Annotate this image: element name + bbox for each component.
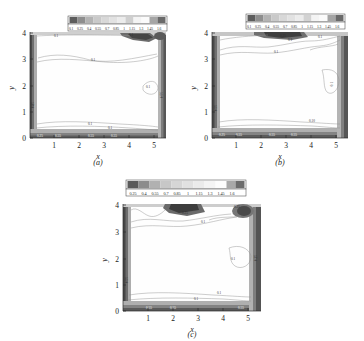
cb-tick: 1.45 [325, 25, 331, 29]
cb-tick: 0.25 [130, 191, 137, 196]
cb-tick: 0.55 [95, 27, 101, 31]
contour-label: 0.10 [309, 119, 315, 123]
contour-label: 0.1 [330, 82, 334, 87]
contour-label: 0.55 [236, 133, 242, 137]
y-tick: 1 [204, 108, 208, 117]
contour-label: 0.1 [288, 38, 293, 42]
y-tick: 2 [115, 255, 119, 264]
contour-label: 0.55 [238, 306, 244, 310]
panel-caption-b: (b) [260, 158, 300, 167]
contour-label: 0.55 [269, 133, 275, 137]
cb-tick: 1.6 [335, 25, 339, 29]
x-tick: 5 [152, 141, 156, 150]
cb-tick: 0.25 [255, 25, 261, 29]
cb-tick: 1.6 [230, 191, 235, 196]
colorbar-b-ticks: 0.1 0.25 0.4 0.55 0.7 0.85 1 1.15 1.3 1.… [247, 25, 339, 29]
contour-label: 0.55 [88, 134, 94, 138]
cb-tick: 0.1 [247, 25, 251, 29]
y-tick: 0 [204, 134, 208, 143]
contour-label: 0.1 [217, 291, 222, 295]
cb-tick: 1.15 [129, 27, 135, 31]
contour-label: 0.55 [125, 277, 129, 283]
cb-tick: 0.4 [265, 25, 269, 29]
y-tick: 4 [204, 29, 208, 38]
panel-c: 0.25 0.4 0.55 0.7 0.85 1 1.15 1.3 1.45 1… [91, 170, 276, 341]
y-tick: 3 [115, 228, 119, 237]
contour-field-b: 0.25 0.1 0.1 0.1 0.10 0.1 0.55 0.55 0.55… [212, 32, 348, 138]
contour-label: 0.1 [129, 33, 134, 37]
cb-tick: 0.7 [283, 25, 287, 29]
y-tick: 1 [22, 108, 26, 117]
contour-label: 0.25 [37, 134, 43, 138]
cb-tick: 0.85 [174, 191, 181, 196]
contour-label: 0.1 [318, 35, 323, 39]
contour-label: 0.1 [54, 34, 59, 38]
y-axis-label-a: y [7, 86, 16, 91]
x-tick: 3 [102, 141, 106, 150]
contour-label: 0.1 [91, 58, 96, 62]
y-tick: 2 [22, 82, 26, 91]
cb-tick: 0.85 [291, 25, 297, 29]
panel-b: 0.1 0.25 0.4 0.55 0.7 0.85 1 1.15 1.3 1.… [182, 0, 364, 170]
cb-tick: 1.6 [157, 27, 161, 31]
panel-caption-a: (a) [78, 158, 118, 167]
contour-label: 0.1 [274, 50, 279, 54]
x-tick: 2 [77, 141, 81, 150]
contour-label: 0.25 [280, 34, 286, 38]
x-tick: 1 [146, 314, 150, 323]
contour-field-c: 0.25 0.25 0.1 0.1 0.1 0.1 0.55 0.55 0.55… [123, 204, 261, 311]
x-tick: 5 [334, 141, 338, 150]
y-tick: 2 [204, 82, 208, 91]
cb-tick: 1.3 [139, 27, 143, 31]
y-tick: 0 [115, 307, 119, 316]
y-ticks-c: 0 1 2 3 4 [115, 201, 119, 316]
cb-tick: 0.7 [105, 27, 109, 31]
contour-label: 0.55 [214, 105, 218, 111]
x-ticks-b: 1 2 3 4 5 [234, 141, 338, 150]
y-tick: 1 [115, 281, 119, 290]
cb-tick: 1 [123, 27, 125, 31]
colorbar-a-ticks: 0.1 0.25 0.4 0.55 0.7 0.85 1 1.15 1.3 1.… [69, 27, 161, 31]
x-ticks-a: 1 2 3 4 5 [52, 141, 156, 150]
y-tick: 3 [22, 55, 26, 64]
cb-tick: 0.7 [164, 191, 169, 196]
cb-tick: 1.3 [317, 25, 321, 29]
cb-tick: 0.25 [77, 27, 83, 31]
cb-tick: 0.4 [87, 27, 91, 31]
x-tick: 2 [259, 141, 263, 150]
x-tick: 2 [171, 314, 175, 323]
contour-label: 0.25 [219, 133, 225, 137]
x-tick: 5 [246, 314, 250, 323]
cb-tick: 1.45 [218, 191, 225, 196]
x-tick: 1 [234, 141, 238, 150]
contour-label: 0.1 [231, 257, 236, 261]
y-tick: 4 [115, 201, 119, 210]
colorbar-b: 0.1 0.25 0.4 0.55 0.7 0.85 1 1.15 1.3 1.… [246, 14, 345, 29]
contour-label: 0.1 [194, 297, 199, 301]
y-tick: 3 [204, 55, 208, 64]
x-tick: 4 [309, 141, 313, 150]
x-tick: 3 [196, 314, 200, 323]
contour-label: 0.25 [254, 255, 258, 261]
cb-tick: 0.85 [113, 27, 119, 31]
contour-label: 0.1 [108, 126, 113, 130]
y-axis-label-c: y [100, 258, 109, 263]
cb-tick: 0.55 [152, 191, 159, 196]
contour-label: 0.55 [291, 133, 297, 137]
cb-tick: 0.1 [69, 27, 73, 31]
cb-tick: 1.45 [147, 27, 153, 31]
contour-label: 0.1 [201, 220, 206, 224]
panel-a-plot: 0.1 0.25 0.4 0.55 0.7 0.85 1 1.15 1.3 1.… [0, 0, 182, 170]
y-ticks-b: 0 1 2 3 4 [204, 29, 208, 143]
contour-label: 0.55 [146, 306, 152, 310]
cb-tick: 0.55 [273, 25, 279, 29]
panel-c-plot: 0.25 0.4 0.55 0.7 0.85 1 1.15 1.3 1.45 1… [91, 170, 276, 341]
panel-caption-c: (c) [172, 330, 212, 339]
x-tick: 4 [127, 141, 131, 150]
y-ticks-a: 0 1 2 3 4 [22, 29, 26, 143]
contour-label: 0.55 [160, 92, 164, 98]
contour-label: 0.25 [234, 205, 240, 209]
cb-tick: 1 [187, 191, 189, 196]
contour-label: 0.85 [31, 102, 35, 108]
x-ticks-c: 1 2 3 4 5 [146, 314, 250, 323]
